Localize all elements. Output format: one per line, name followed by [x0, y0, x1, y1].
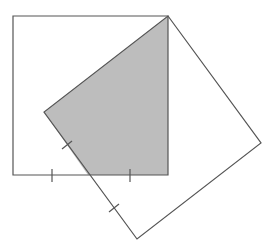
shaded-overlap-region: [44, 16, 168, 175]
geometry-diagram: [0, 0, 273, 250]
tick-mark: [109, 204, 119, 212]
